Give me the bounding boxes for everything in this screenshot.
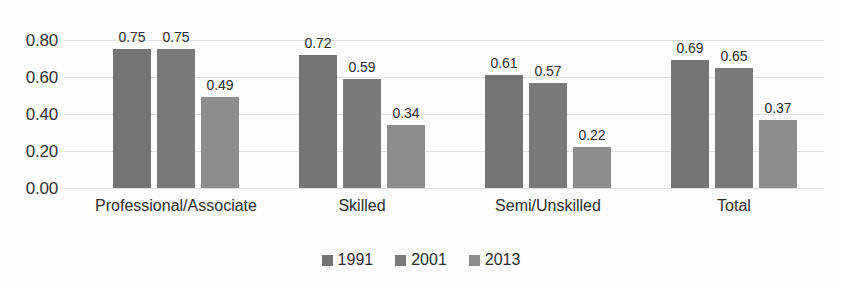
bar-slot: 0.49 (201, 40, 239, 188)
legend-swatch-icon (469, 255, 480, 266)
bar[interactable] (157, 49, 195, 188)
bar-value-label: 0.22 (565, 128, 619, 142)
bar-group: 0.720.590.34 (299, 40, 425, 188)
legend-item[interactable]: 1991 (322, 252, 374, 268)
bar-value-label: 0.75 (149, 30, 203, 44)
bar-slot: 0.75 (113, 40, 151, 188)
y-axis-tick-label: 0.00 (6, 180, 58, 197)
x-axis-category-labels: Professional/AssociateSkilledSemi/Unskil… (64, 196, 824, 222)
y-axis-tick-label: 0.20 (6, 143, 58, 160)
bar-slot: 0.61 (485, 40, 523, 188)
bar-value-label: 0.72 (291, 36, 345, 50)
legend-label: 2013 (485, 252, 521, 268)
plot-area: 0.750.750.490.720.590.340.610.570.220.69… (64, 40, 824, 188)
legend-label: 2001 (411, 252, 447, 268)
bar-group: 0.690.650.37 (671, 40, 797, 188)
bar[interactable] (671, 60, 709, 188)
bar-value-label: 0.37 (751, 101, 805, 115)
x-axis-category-label: Total (624, 196, 842, 216)
bar-slot: 0.22 (573, 40, 611, 188)
bar[interactable] (715, 68, 753, 188)
legend-label: 1991 (338, 252, 374, 268)
y-axis-tick-label: 0.40 (6, 106, 58, 123)
y-axis: 0.800.600.400.200.00 (0, 40, 58, 188)
bar-value-label: 0.34 (379, 106, 433, 120)
bar-slot: 0.37 (759, 40, 797, 188)
bar[interactable] (759, 120, 797, 188)
bar[interactable] (201, 97, 239, 188)
legend-item[interactable]: 2013 (469, 252, 521, 268)
bar-slot: 0.65 (715, 40, 753, 188)
bar-value-label: 0.65 (707, 49, 761, 63)
bar-value-label: 0.59 (335, 60, 389, 74)
bar[interactable] (299, 55, 337, 188)
bar[interactable] (573, 147, 611, 188)
bar-slot: 0.59 (343, 40, 381, 188)
y-axis-tick-label: 0.60 (6, 69, 58, 86)
bar-slot: 0.72 (299, 40, 337, 188)
bar-chart: 0.800.600.400.200.00 0.750.750.490.720.5… (0, 0, 842, 285)
bar-slot: 0.34 (387, 40, 425, 188)
legend-item[interactable]: 2001 (395, 252, 447, 268)
bar[interactable] (529, 83, 567, 188)
bar[interactable] (485, 75, 523, 188)
bar-value-label: 0.57 (521, 64, 575, 78)
legend-swatch-icon (395, 255, 406, 266)
bar-slot: 0.69 (671, 40, 709, 188)
bar[interactable] (387, 125, 425, 188)
bar-slot: 0.57 (529, 40, 567, 188)
axis-baseline (64, 188, 824, 189)
bar[interactable] (113, 49, 151, 188)
legend-swatch-icon (322, 255, 333, 266)
bar-slot: 0.75 (157, 40, 195, 188)
bar-value-label: 0.49 (193, 78, 247, 92)
bar-group: 0.750.750.49 (113, 40, 239, 188)
bar[interactable] (343, 79, 381, 188)
bar-group: 0.610.570.22 (485, 40, 611, 188)
y-axis-tick-label: 0.80 (6, 32, 58, 49)
chart-legend: 199120012013 (0, 246, 842, 274)
